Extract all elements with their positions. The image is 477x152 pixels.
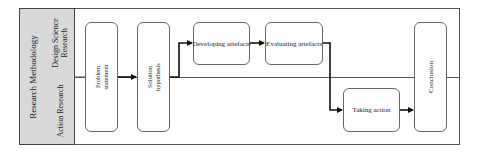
- arrows-layer: [0, 0, 477, 152]
- arrow-evaluating-to-taking-action: [323, 43, 342, 110]
- arrow-solution-to-developing: [170, 43, 192, 77]
